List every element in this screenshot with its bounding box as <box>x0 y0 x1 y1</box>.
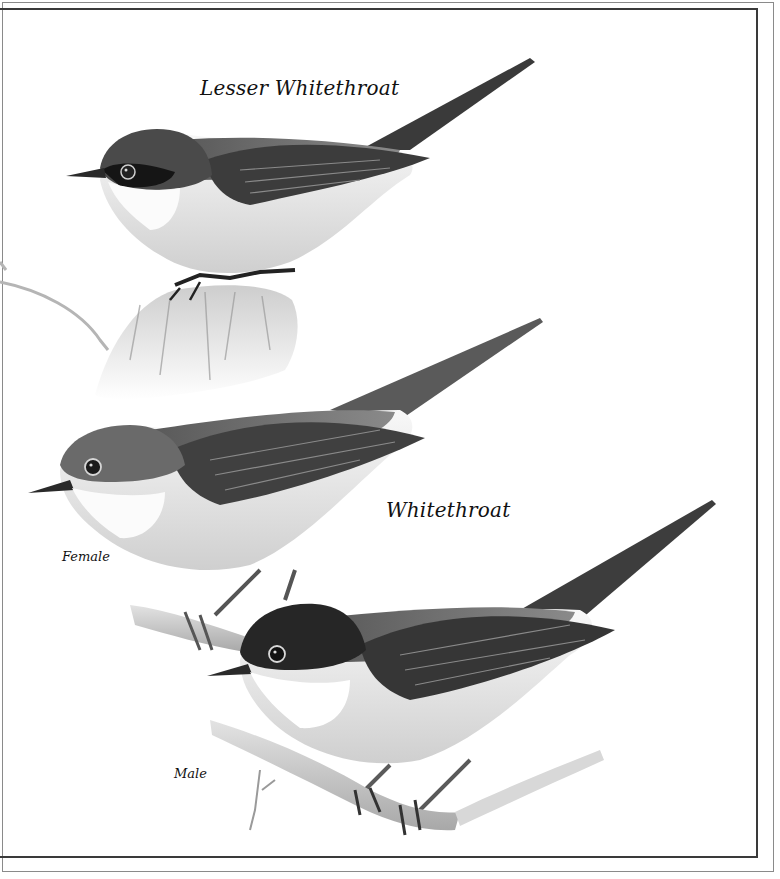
caption-whitethroat: Whitethroat <box>386 498 510 522</box>
bird-plate-illustration <box>0 0 780 879</box>
twig-left <box>0 262 108 350</box>
mossy-stump <box>95 285 298 399</box>
caption-female: Female <box>62 549 110 564</box>
branch-middle <box>130 605 250 652</box>
caption-male: Male <box>174 766 207 781</box>
caption-lesser-whitethroat: Lesser Whitethroat <box>200 76 399 100</box>
